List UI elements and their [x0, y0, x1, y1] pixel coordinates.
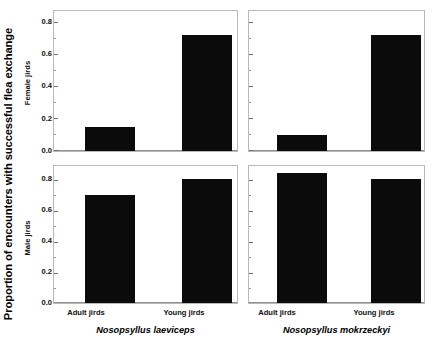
y-tick-major [54, 150, 58, 151]
y-tick-major [249, 180, 253, 181]
y-tick-major [249, 86, 253, 87]
ytick-label: 0.2 [28, 268, 52, 276]
ytick-label: 0.8 [28, 175, 52, 183]
ytick-label: 0.6 [28, 206, 52, 214]
y-tick-minor [54, 257, 56, 258]
ytick-label: 0.6 [28, 50, 52, 58]
xtick-label-adult-mokrzeckyi: Adult jirds [245, 308, 309, 317]
y-tick-minor [249, 195, 251, 196]
y-tick-minor [54, 70, 56, 71]
ytick-label: 0.0 [28, 147, 52, 155]
ytick-label: 0.0 [28, 299, 52, 307]
ytick-label: 0.2 [28, 115, 52, 123]
bar[interactable] [85, 127, 135, 151]
bar[interactable] [371, 35, 421, 151]
y-tick-major [249, 118, 253, 119]
y-tick-major [54, 54, 58, 55]
figure-y-axis-title-text: Proportion of encounters with successful… [2, 28, 14, 320]
y-tick-major [249, 211, 253, 212]
ytick-label: 0.4 [28, 237, 52, 245]
panel-female-laeviceps [53, 10, 238, 152]
y-tick-minor [249, 257, 251, 258]
y-tick-minor [249, 134, 251, 135]
y-tick-major [249, 22, 253, 23]
bar[interactable] [277, 135, 327, 151]
xtick-label-young-mokrzeckyi: Young jirds [340, 308, 408, 317]
y-tick-minor [54, 102, 56, 103]
y-tick-major [54, 180, 58, 181]
y-tick-minor [249, 70, 251, 71]
bar[interactable] [182, 35, 232, 151]
xtick-label-young-laeviceps: Young jirds [150, 308, 218, 317]
y-tick-major [54, 86, 58, 87]
ytick-label: 0.8 [28, 18, 52, 26]
y-tick-major [249, 242, 253, 243]
bar[interactable] [182, 179, 232, 303]
y-tick-major [249, 150, 253, 151]
y-tick-minor [54, 38, 56, 39]
y-tick-minor [249, 38, 251, 39]
y-tick-major [54, 273, 58, 274]
y-tick-minor [249, 226, 251, 227]
bar[interactable] [277, 173, 327, 303]
panel-male-mokrzeckyi [248, 165, 425, 304]
y-tick-major [54, 22, 58, 23]
y-tick-major [249, 273, 253, 274]
y-tick-major [54, 118, 58, 119]
xtick-label-adult-laeviceps: Adult jirds [54, 308, 118, 317]
column-label-laeviceps: Nosopsyllus laeviceps [53, 325, 238, 335]
figure-y-axis-title: Proportion of encounters with successful… [0, 0, 16, 348]
y-tick-major [54, 211, 58, 212]
bar[interactable] [371, 179, 421, 303]
y-tick-minor [54, 134, 56, 135]
y-tick-minor [249, 288, 251, 289]
panel-male-laeviceps [53, 165, 238, 304]
bar[interactable] [85, 195, 135, 304]
panel-female-mokrzeckyi [248, 10, 425, 152]
y-tick-minor [54, 288, 56, 289]
y-axis-tick-labels-top: 0.8 0.6 0.4 0.2 0.0 0.8 0.6 0.4 0.2 0.0 [26, 0, 52, 348]
y-tick-major [249, 54, 253, 55]
y-tick-minor [54, 195, 56, 196]
ytick-label: 0.4 [28, 82, 52, 90]
y-tick-minor [54, 226, 56, 227]
y-tick-minor [249, 102, 251, 103]
column-label-mokrzeckyi: Nosopsyllus mokrzeckyi [248, 325, 425, 335]
y-tick-major [54, 242, 58, 243]
